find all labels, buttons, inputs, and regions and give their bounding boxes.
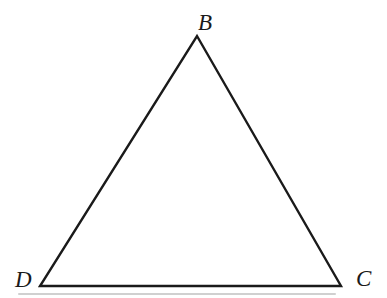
triangle-svg	[0, 0, 387, 298]
geometry-figure: B D C	[0, 0, 387, 298]
scan-artifact-line	[18, 293, 336, 295]
triangle-shape	[40, 36, 341, 286]
vertex-label-c: C	[356, 267, 371, 290]
vertex-label-d: D	[15, 268, 32, 291]
vertex-label-b: B	[198, 11, 212, 34]
